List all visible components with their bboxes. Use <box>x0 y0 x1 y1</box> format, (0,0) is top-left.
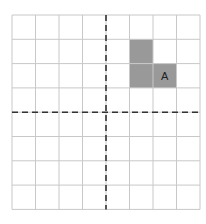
coordinate-grid-diagram: A <box>0 0 206 224</box>
shape-a-label: A <box>161 70 169 82</box>
shape-a-cell <box>130 39 154 63</box>
shape-a-cell <box>130 64 154 88</box>
